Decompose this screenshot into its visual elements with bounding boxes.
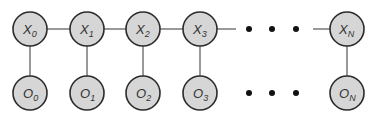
hidden-state-x2: X2 <box>126 12 160 46</box>
ellipsis-dot <box>269 26 275 32</box>
observation-on: ON <box>330 76 364 110</box>
observation-o3: O3 <box>183 76 217 110</box>
hidden-state-x3: X3 <box>183 12 217 46</box>
hmm-diagram: X0 X1 X2 X3 XN O0 O1 O2 O3 ON <box>0 0 368 118</box>
ellipsis-dot <box>269 90 275 96</box>
observation-o0: O0 <box>13 76 47 110</box>
emission-edges <box>30 46 347 76</box>
ellipsis-dot <box>293 90 299 96</box>
ellipsis-dot <box>246 90 252 96</box>
observation-o2: O2 <box>126 76 160 110</box>
hidden-state-x1: X1 <box>70 12 104 46</box>
ellipsis-bottom <box>246 90 299 96</box>
observation-o1: O1 <box>70 76 104 110</box>
ellipsis-dot <box>246 26 252 32</box>
ellipsis-dot <box>293 26 299 32</box>
ellipsis-top <box>246 26 299 32</box>
hidden-state-x0: X0 <box>13 12 47 46</box>
hidden-state-xn: XN <box>330 12 364 46</box>
